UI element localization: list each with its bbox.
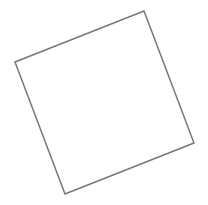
rotated-square-outline <box>15 11 194 194</box>
diagram-canvas <box>0 0 208 205</box>
diagram-svg <box>0 0 208 205</box>
